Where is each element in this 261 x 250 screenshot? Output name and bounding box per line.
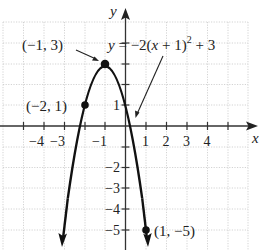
vertex-point [101, 60, 110, 69]
y-tick-label: −5 [105, 223, 120, 238]
y-axis-label: y [108, 3, 117, 19]
x-tick-label: −1 [92, 134, 107, 149]
equation-pointer-arrow-icon [135, 111, 140, 119]
x-tick-label: −4 [29, 134, 44, 149]
x-tick-label: 4 [204, 134, 211, 149]
parabola-graph: x y −4 −3 −1 1 2 3 4 1 −2 −3 −4 −5 (−1, … [0, 0, 261, 250]
y-tick-label: −2 [105, 160, 120, 175]
y-tick-labels: 1 −2 −3 −4 −5 [105, 98, 120, 238]
x-axis-label: x [251, 130, 259, 146]
point-right-label: (1, −5) [154, 223, 195, 240]
equation-label: y = −2(x + 1)2 + 3 [106, 34, 215, 54]
x-tick-label: −3 [50, 134, 65, 149]
point-left [81, 101, 89, 109]
vertex-pointer-line [76, 50, 96, 59]
y-tick-label: −3 [105, 181, 120, 196]
point-right [142, 226, 150, 234]
vertex-label: (−1, 3) [22, 37, 63, 54]
x-tick-label: 1 [142, 134, 149, 149]
y-tick-label: −4 [105, 202, 120, 217]
y-tick-label: 1 [113, 98, 120, 113]
point-left-label: (−2, 1) [26, 98, 67, 115]
x-tick-label: 3 [183, 134, 190, 149]
x-tick-labels: −4 −3 −1 1 2 3 4 [29, 134, 211, 149]
x-tick-label: 2 [163, 134, 170, 149]
